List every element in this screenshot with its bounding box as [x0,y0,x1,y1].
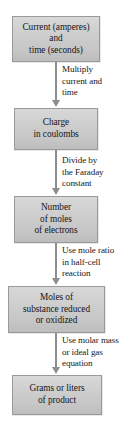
flow-arrow-label-molar-mass-line-3: equation [62,358,137,370]
flow-arrow-multiply [52,62,61,108]
flow-node-moles-substance-line-1: Moles of [40,292,73,304]
flow-node-moles-electrons-line-1: Number [41,202,71,214]
flow-arrow-faraday [52,150,61,196]
arrow-head-down-icon [52,367,60,374]
flow-node-charge-line-2: in coulombs [33,129,78,141]
flow-node-moles-substance: Moles of substance reduced or oxidized [8,286,105,333]
flow-node-current-time: Current (amperes) and time (seconds) [12,16,100,62]
arrow-shaft-icon [55,243,57,279]
flow-node-current-time-line-3: time (seconds) [29,45,83,57]
flow-arrow-label-multiply: Multiply current and time [62,64,137,99]
flow-arrow-molar-mass [52,333,61,375]
flow-arrow-mole-ratio [52,243,61,286]
arrow-shaft-icon [55,333,57,368]
flowchart-diagram: Current (amperes) and time (seconds) Mul… [0,0,137,424]
arrow-shaft-icon [55,62,57,101]
flow-arrow-label-faraday-line-1: Divide by [62,155,137,167]
flow-node-current-time-line-2: and [49,33,62,45]
arrow-head-down-icon [52,188,60,195]
flow-arrow-label-multiply-line-1: Multiply [62,64,137,76]
flow-arrow-label-faraday-line-3: constant [62,178,137,190]
flow-node-moles-substance-line-2: substance reduced [23,304,90,316]
flow-node-moles-substance-line-3: or oxidized [36,315,78,327]
flow-arrow-label-mole-ratio: Use mole ratio in half-cell reaction [62,245,137,280]
flow-arrow-label-molar-mass-line-1: Use molar mass [62,335,137,347]
flow-arrow-label-molar-mass-line-2: or ideal gas [62,347,137,359]
flow-arrow-label-faraday-line-2: the Faraday [62,167,137,179]
flow-node-current-time-line-1: Current (amperes) [22,22,89,34]
flow-arrow-label-multiply-line-3: time [62,87,137,99]
flow-node-charge: Charge in coulombs [14,108,98,150]
flow-arrow-label-molar-mass: Use molar mass or ideal gas equation [62,335,137,370]
flow-node-grams-liters-line-1: Grams or liters [29,383,84,395]
flow-arrow-label-faraday: Divide by the Faraday constant [62,155,137,190]
flow-node-moles-electrons-line-3: of electrons [34,225,77,237]
arrow-head-down-icon [52,278,60,285]
arrow-head-down-icon [52,100,60,107]
flow-node-grams-liters-line-2: of product [38,395,76,407]
flow-node-charge-line-1: Charge [43,117,69,129]
flow-arrow-label-mole-ratio-line-2: in half-cell [62,257,137,269]
flow-arrow-label-mole-ratio-line-1: Use mole ratio [62,245,137,257]
flow-node-grams-liters: Grams or liters of product [12,375,102,415]
flow-node-moles-electrons-line-2: of moles [40,214,72,226]
flow-arrow-label-multiply-line-2: current and [62,76,137,88]
flow-node-moles-electrons: Number of moles of electrons [14,196,98,243]
arrow-shaft-icon [55,150,57,189]
flow-arrow-label-mole-ratio-line-3: reaction [62,268,137,280]
